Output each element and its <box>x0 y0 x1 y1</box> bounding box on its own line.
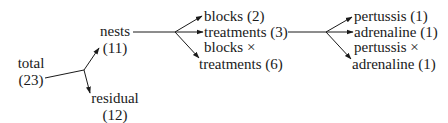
node-adrenaline: adrenaline (1) <box>354 24 438 40</box>
edge-nests-to-blocks-x-treatments <box>175 32 199 58</box>
node-pertussis-x-adrenaline-line2: adrenaline (1) <box>352 56 436 72</box>
node-pertussis: pertussis (1) <box>354 8 428 24</box>
node-total: total (23) <box>14 55 48 88</box>
node-blocks-x-treatments: blocks × treatments (6) <box>199 39 283 72</box>
edge-total-stem <box>45 70 84 78</box>
node-pertussis-x-adrenaline: pertussis × adrenaline (1) <box>352 39 436 72</box>
node-residual-name: residual <box>91 90 139 106</box>
edge-total-to-residual <box>84 70 90 93</box>
edge-total-to-nests <box>84 48 99 70</box>
node-total-name: total <box>14 55 48 71</box>
node-nests-name: nests <box>98 23 132 39</box>
node-blocks-x-treatments-line1: blocks × <box>199 39 283 55</box>
node-blocks-x-treatments-line2: treatments (6) <box>199 56 283 72</box>
edge-treatments-to-pertussis-x-adrenaline <box>326 32 351 59</box>
node-blocks: blocks (2) <box>204 8 264 24</box>
node-treatments: treatments (3) <box>204 24 288 40</box>
node-pertussis-x-adrenaline-line1: pertussis × <box>352 39 436 55</box>
df-partition-diagram: total (23) nests (11) residual (12) bloc… <box>0 0 448 123</box>
node-residual: residual (12) <box>91 90 139 123</box>
node-nests: nests (11) <box>98 23 132 56</box>
node-nests-df: (11) <box>98 40 132 56</box>
node-residual-df: (12) <box>91 107 139 123</box>
edge-nests-to-blocks <box>175 16 202 32</box>
edge-treatments-to-pertussis <box>326 17 352 32</box>
node-total-df: (23) <box>14 72 48 88</box>
